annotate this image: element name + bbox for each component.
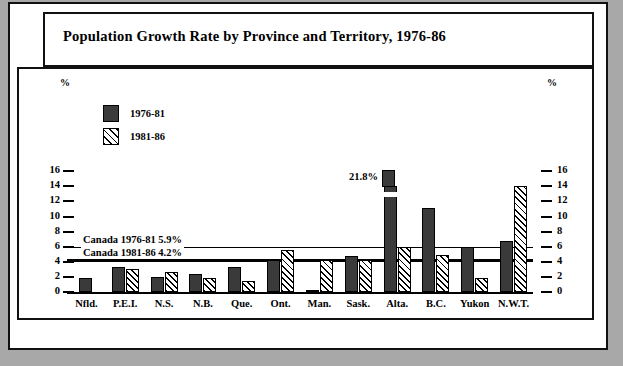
y-tick-label: 14 xyxy=(40,179,60,190)
bar-series-container xyxy=(67,69,533,294)
axis-break-gap xyxy=(382,192,398,197)
x-axis-labels: Nfld.P.E.I.N.S.N.B.Que.Ont.Man.Sask.Alta… xyxy=(67,298,533,316)
bar-group xyxy=(500,69,528,292)
bar-group xyxy=(267,69,295,292)
bar-group xyxy=(150,69,178,292)
y-tick-mark xyxy=(541,170,552,172)
bar-1981-86 xyxy=(281,250,294,292)
y-tick-label: 4 xyxy=(557,255,577,266)
y-tick-label: 6 xyxy=(40,240,60,251)
bar-1981-86 xyxy=(475,278,488,292)
y-tick-label: 8 xyxy=(40,225,60,236)
plot-panel: % % 00224466881010121214141616 1976-81 1… xyxy=(17,67,594,320)
bar-group xyxy=(228,69,256,292)
y-tick-label: 12 xyxy=(557,194,577,205)
bar-1976-81 xyxy=(151,277,164,292)
y-tick-label: 0 xyxy=(40,285,60,296)
y-tick-label: 10 xyxy=(40,210,60,221)
bar-1976-81 xyxy=(306,290,319,292)
y-tick-label: 16 xyxy=(40,164,60,175)
y-tick-label: 16 xyxy=(557,164,577,175)
chart-title: Population Growth Rate by Province and T… xyxy=(63,28,446,45)
y-tick-mark xyxy=(541,231,552,233)
bar-1981-86 xyxy=(165,272,178,292)
bar-1981-86 xyxy=(398,247,411,292)
bar-1976-81 xyxy=(79,278,92,292)
bar-group xyxy=(422,69,450,292)
y-tick-label: 4 xyxy=(40,255,60,266)
bar-1976-81 xyxy=(189,274,202,292)
bar-1981-86 xyxy=(320,260,333,292)
bar-group xyxy=(305,69,333,292)
bar-1981-86 xyxy=(359,260,372,292)
x-axis-label: N.W.T. xyxy=(484,298,544,309)
y-tick-mark xyxy=(541,276,552,278)
bar-1981-86 xyxy=(436,255,449,292)
y-tick-mark xyxy=(541,216,552,218)
bar-1976-81 xyxy=(461,247,474,292)
bar-1976-81 xyxy=(384,186,397,292)
y-tick-label: 14 xyxy=(557,179,577,190)
bar-1976-81 xyxy=(500,241,513,292)
bar-1981-86 xyxy=(514,186,527,292)
y-tick-label: 10 xyxy=(557,210,577,221)
title-panel: Population Growth Rate by Province and T… xyxy=(43,12,594,67)
y-tick-mark xyxy=(541,185,552,187)
y-tick-label: 0 xyxy=(557,285,577,296)
bar-group xyxy=(72,69,100,292)
bar-1976-81 xyxy=(345,256,358,292)
bar-group xyxy=(461,69,489,292)
value-annotation-21-8: 21.8% xyxy=(349,171,378,182)
plot-area: % % 00224466881010121214141616 1976-81 1… xyxy=(19,69,592,318)
y-tick-label: 8 xyxy=(557,225,577,236)
bar-1981-86 xyxy=(126,269,139,292)
y-tick-label: 2 xyxy=(557,270,577,281)
y-tick-label: 6 xyxy=(557,240,577,251)
y-tick-label: 2 xyxy=(40,270,60,281)
y-tick-label: 12 xyxy=(40,194,60,205)
bar-1976-81 xyxy=(228,267,241,292)
bar-group xyxy=(111,69,139,292)
chart-figure: Population Growth Rate by Province and T… xyxy=(0,0,623,366)
bar-1981-86 xyxy=(242,281,255,292)
bar-1981-86 xyxy=(203,278,216,292)
bar-1976-81 xyxy=(422,208,435,292)
bar-group xyxy=(189,69,217,292)
y-tick-mark xyxy=(541,291,552,293)
bar-1976-81 xyxy=(267,260,280,292)
y-tick-mark xyxy=(541,261,552,263)
y-tick-mark xyxy=(541,246,552,248)
bar-1976-81 xyxy=(112,267,125,292)
y-tick-mark xyxy=(541,200,552,202)
y-axis-unit-right: % xyxy=(547,77,557,88)
bar-1976-81-broken-top xyxy=(382,170,395,187)
